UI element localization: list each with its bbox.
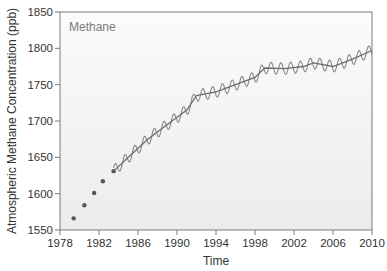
data-point [101,179,105,183]
y-tick-label: 1700 [27,115,53,127]
data-point [82,203,86,207]
x-tick-label: 1978 [47,237,73,249]
y-tick-label: 1750 [27,79,53,91]
x-axis: 197819821986199019941998200220062010 [47,230,385,249]
x-tick-label: 1994 [203,237,229,249]
methane-chart: 1550160016501700175018001850 19781982198… [0,0,387,271]
y-tick-label: 1650 [27,151,53,163]
y-tick-label: 1550 [27,224,53,236]
y-tick-label: 1800 [27,42,53,54]
x-tick-label: 2002 [281,237,307,249]
plot-title: Methane [69,20,116,34]
plot-area [60,12,372,230]
x-tick-label: 2006 [320,237,346,249]
data-point [92,191,96,195]
x-tick-label: 1990 [164,237,190,249]
x-tick-label: 1986 [125,237,151,249]
y-tick-label: 1600 [27,188,53,200]
x-tick-label: 2010 [359,237,385,249]
y-tick-label: 1850 [27,6,53,18]
data-point [71,216,75,220]
y-axis: 1550160016501700175018001850 [27,6,60,236]
x-tick-label: 1982 [86,237,112,249]
x-axis-title: Time [203,254,230,268]
y-axis-title: Atmospheric Methane Concentration (ppb) [5,8,19,234]
x-tick-label: 1998 [242,237,268,249]
